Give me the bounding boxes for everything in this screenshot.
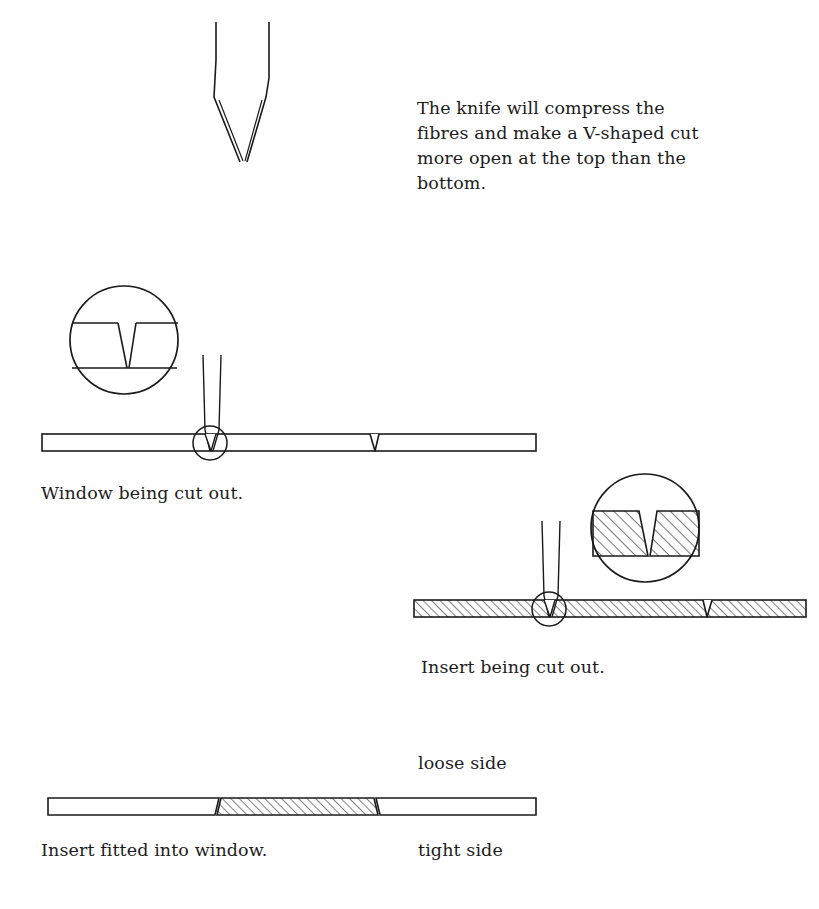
fitted-window-left-section	[48, 798, 219, 815]
inset-board-left-hatched	[593, 511, 648, 556]
knife-left-edge	[214, 22, 240, 162]
label-loose-side: loose side	[418, 751, 507, 776]
diagram-page: The knife will compress the fibres and m…	[0, 0, 819, 909]
caption-insert-fitted: Insert fitted into window.	[41, 838, 267, 863]
caption-window-being-cut: Window being cut out.	[41, 481, 243, 506]
insert-board-figure	[414, 474, 806, 626]
inset-circle-outline	[70, 286, 178, 394]
window-board-body	[42, 434, 536, 451]
intro-paragraph: The knife will compress the fibres and m…	[417, 96, 717, 195]
knife-right-bevel	[245, 100, 262, 161]
fitted-board-figure	[48, 798, 536, 815]
fitted-insert-section	[217, 798, 378, 815]
window-detail-inset	[70, 286, 178, 394]
knife-detail-figure	[42, 22, 366, 163]
window-board-figure	[42, 286, 536, 460]
insert-detail-inset	[591, 474, 699, 582]
knife-left-bevel	[219, 100, 243, 161]
insert-board-body	[414, 600, 806, 617]
inset-board-right-hatched	[650, 511, 699, 556]
fitted-window-right-section	[376, 798, 536, 815]
label-tight-side: tight side	[418, 838, 503, 863]
caption-insert-being-cut: Insert being cut out.	[421, 655, 605, 680]
